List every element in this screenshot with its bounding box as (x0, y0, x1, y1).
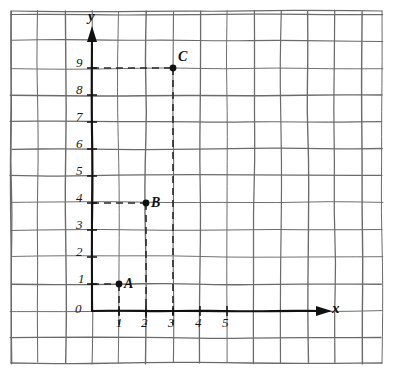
x-tick-1: 1 (116, 315, 123, 331)
x-axis-label: x (332, 300, 340, 317)
point-label-a: A (124, 276, 133, 292)
y-tick-9: 9 (76, 55, 83, 71)
y-axis-label: y (88, 8, 95, 25)
point-marker-a (116, 281, 123, 288)
y-tick-8: 8 (76, 82, 83, 98)
point-label-c: C (178, 49, 187, 65)
y-tick-1: 1 (78, 271, 85, 287)
point-label-b: B (151, 195, 160, 211)
y-tick-3: 3 (76, 217, 83, 233)
x-tick-4: 4 (195, 315, 202, 331)
axis-ticks (87, 68, 227, 316)
x-tick-5: 5 (222, 315, 229, 331)
y-tick-4: 4 (76, 190, 83, 206)
y-tick-6: 6 (76, 136, 83, 152)
x-axis-arrowhead (316, 306, 332, 316)
y-axis-line (92, 36, 93, 311)
x-tick-2: 2 (141, 315, 148, 331)
x-tick-3: 3 (168, 315, 175, 331)
origin-label: 0 (75, 301, 82, 317)
y-tick-5: 5 (76, 163, 83, 179)
y-axis-arrowhead (87, 26, 97, 42)
y-tick-7: 7 (76, 109, 83, 125)
point-marker-b (143, 200, 150, 207)
graph-figure: 9 8 7 6 5 4 3 2 1 0 1 2 3 4 5 y x A B C (0, 0, 395, 379)
point-marker-c (170, 65, 177, 72)
x-axis-line (92, 311, 322, 312)
y-tick-2: 2 (76, 244, 83, 260)
axes (92, 36, 322, 311)
